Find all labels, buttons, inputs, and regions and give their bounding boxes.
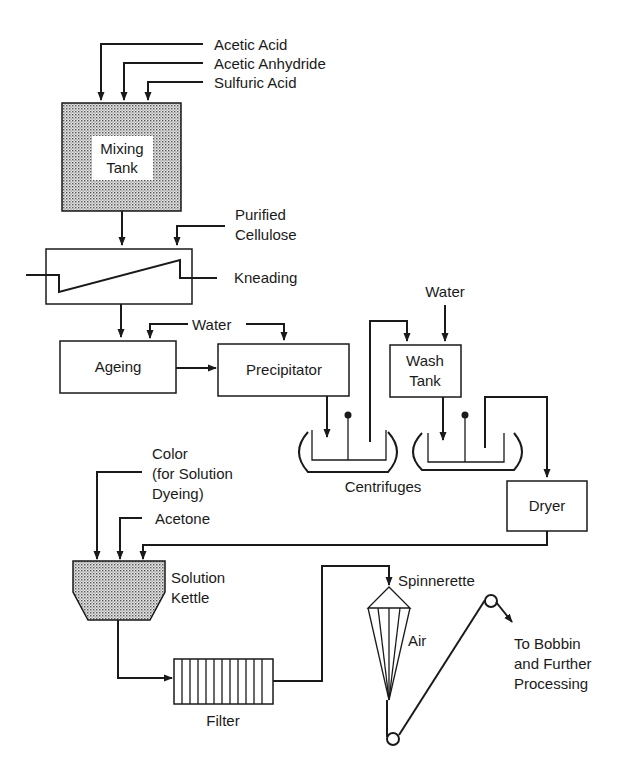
- output-label-1: To Bobbin: [514, 635, 581, 652]
- fiber-path: [387, 595, 512, 745]
- feed-color: Color (for Solution Dyeing): [97, 445, 233, 559]
- process-flow-diagram: Acetic Acid Acetic Anhydride Sulfuric Ac…: [0, 0, 638, 777]
- label-color-1: Color: [152, 445, 188, 462]
- label-acetone: Acetone: [155, 510, 210, 527]
- centrifuges-label: Centrifuges: [345, 478, 422, 495]
- dryer-label: Dryer: [529, 497, 566, 514]
- label-acetic-anhydride: Acetic Anhydride: [214, 55, 326, 72]
- dryer-unit: Dryer: [507, 481, 587, 531]
- kneader: Kneading: [26, 249, 297, 304]
- label-water-2: Water: [425, 283, 464, 300]
- mixing-tank: Mixing Tank: [62, 103, 181, 211]
- wash-tank-label-2: Tank: [409, 372, 441, 389]
- label-sulfuric-acid: Sulfuric Acid: [214, 74, 297, 91]
- label-cellulose: Cellulose: [235, 226, 297, 243]
- solution-kettle: Solution Kettle: [73, 561, 225, 620]
- output-label-3: Processing: [514, 675, 588, 692]
- centrifuge-2: [413, 412, 522, 471]
- label-purified: Purified: [235, 206, 286, 223]
- filter-label: Filter: [206, 712, 239, 729]
- wash-tank: Wash Tank: [390, 345, 461, 397]
- flow-dryer-to-kettle: [143, 531, 547, 559]
- air-label: Air: [408, 632, 426, 649]
- solution-kettle-label-2: Kettle: [171, 589, 209, 606]
- label-water-1: Water: [192, 316, 231, 333]
- precipitator-unit: Precipitator: [218, 344, 349, 396]
- feed-water-wash: Water: [425, 283, 464, 341]
- output-label-2: and Further: [514, 655, 592, 672]
- ageing-label: Ageing: [95, 358, 142, 375]
- feed-sulfuric-acid: Sulfuric Acid: [148, 74, 297, 100]
- feed-acetone: Acetone: [120, 510, 210, 559]
- label-color-3: Dyeing): [152, 485, 204, 502]
- feed-water-ageing-precipitator: Water: [150, 316, 284, 340]
- centrifuge-1: [299, 412, 397, 473]
- ageing-unit: Ageing: [60, 341, 176, 393]
- precipitator-label: Precipitator: [246, 361, 322, 378]
- mixing-tank-label-2: Tank: [106, 159, 138, 176]
- feed-purified-cellulose: Purified Cellulose: [177, 206, 297, 245]
- flow-kettle-to-filter: [118, 620, 172, 678]
- solution-kettle-label-1: Solution: [171, 569, 225, 586]
- label-acetic-acid: Acetic Acid: [214, 36, 287, 53]
- wash-tank-label-1: Wash: [406, 352, 444, 369]
- kneading-label: Kneading: [234, 269, 297, 286]
- filter-unit: Filter: [174, 659, 273, 729]
- spinnerette: Spinnerette Air: [368, 572, 475, 700]
- label-color-2: (for Solution: [152, 465, 233, 482]
- output-bobbin: To Bobbin and Further Processing: [514, 635, 592, 692]
- mixing-tank-label-1: Mixing: [100, 140, 143, 157]
- spinnerette-label: Spinnerette: [398, 572, 475, 589]
